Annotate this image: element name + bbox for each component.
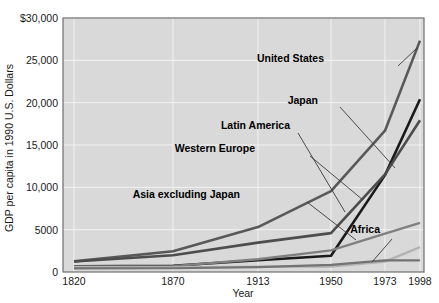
x-axis-tick-labels: 182018701913195019731998	[62, 275, 432, 287]
y-tick-30000: $30,000	[20, 12, 58, 24]
x-axis-title: Year	[232, 287, 254, 299]
x-tick-1820: 1820	[62, 275, 86, 287]
series-label-western-europe: Western Europe	[175, 142, 255, 154]
series-label-asia-excluding-japan: Asia excluding Japan	[133, 188, 240, 200]
x-tick-1998: 1998	[408, 275, 432, 287]
x-tick-1950: 1950	[319, 275, 343, 287]
y-axis-title: GDP per capita in 1990 U.S. Dollars	[3, 64, 15, 232]
y-tick-5000: 5000	[35, 224, 59, 236]
y-tick-10000: 10,000	[26, 181, 58, 193]
x-tick-1973: 1973	[373, 275, 397, 287]
series-label-japan: Japan	[288, 94, 318, 106]
y-tick-15000: 15,000	[26, 139, 58, 151]
x-tick-1913: 1913	[246, 275, 270, 287]
y-tick-20000: 20,000	[26, 97, 58, 109]
y-axis-tick-labels: $30,00025,00020,00015,00010,00050000	[20, 12, 58, 278]
x-tick-1870: 1870	[161, 275, 185, 287]
y-tick-25000: 25,000	[26, 54, 58, 66]
series-label-united-states: United States	[257, 52, 324, 64]
series-label-latin-america: Latin America	[221, 119, 290, 131]
series-label-africa: Africa	[350, 223, 380, 235]
chart-canvas: United StatesJapanLatin AmericaWestern E…	[0, 0, 439, 303]
y-tick-0: 0	[52, 266, 58, 278]
gdp-per-capita-chart: United StatesJapanLatin AmericaWestern E…	[0, 0, 439, 303]
